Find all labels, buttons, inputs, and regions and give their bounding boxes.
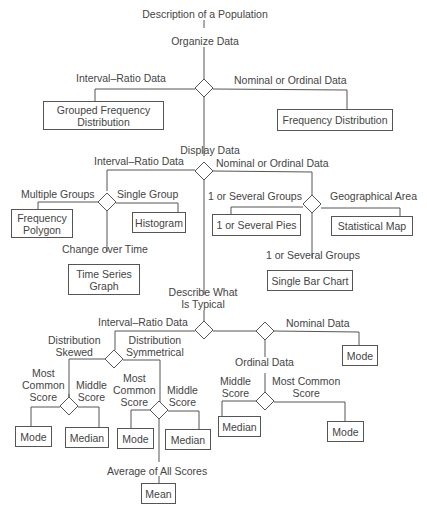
decision-diamond-nominal-display [303,195,321,213]
decision-diamond-distribution [105,350,123,368]
edge-middle-score-skewed: Middle Score [76,379,107,403]
edge-most-common-score-symmetrical: Most Common Score [113,372,156,408]
decision-diamond-interval-display [98,193,116,211]
edge-one-several-groups-bar: 1 or Several Groups [266,249,360,261]
edge-most-common-score-skewed: Most Common Score [22,367,65,403]
stage-describe-typical: Describe What Is Typical [160,286,246,310]
box-mean: Mean [141,483,176,504]
decision-diamond-organize [195,79,213,97]
box-grouped-frequency-distribution: Grouped Frequency Distribution [43,101,164,130]
edge-middle-score-symmetrical: Middle Score [167,384,198,408]
box-pies: 1 or Several Pies [212,214,301,236]
edge-change-over-time: Change over Time [62,243,148,255]
edge-average-all-scores: Average of All Scores [107,465,207,477]
box-median-symmetrical: Median [165,429,211,450]
box-mode-nominal: Mode [342,345,378,366]
box-mode-ordinal: Mode [327,421,364,442]
diagram-title: Description of a Population [140,8,270,20]
box-median-ordinal: Median [218,416,261,437]
edge-distribution-symmetrical: Distribution Symmetrical [126,334,184,358]
stage-organize-data: Organize Data [160,35,250,47]
box-frequency-distribution: Frequency Distribution [277,109,393,131]
edge-interval-ratio-organize: Interval–Ratio Data [76,72,166,84]
edge-geographical-area: Geographical Area [330,190,417,202]
edge-one-several-groups: 1 or Several Groups [208,190,302,202]
decision-diamond-display [195,162,213,180]
edge-ordinal-data: Ordinal Data [235,356,294,368]
edge-nominal-ordinal-organize: Nominal or Ordinal Data [234,74,347,86]
box-mode-skewed: Mode [15,426,52,447]
box-histogram: Histogram [132,212,186,233]
edge-single-group: Single Group [117,188,178,200]
edge-middle-score-ordinal: Middle Score [220,375,251,399]
box-statistical-map: Statistical Map [331,216,413,236]
edge-nominal-data: Nominal Data [286,317,350,329]
edge-distribution-skewed: Distribution Skewed [48,334,101,358]
edge-interval-ratio-typical: Interval–Ratio Data [98,316,188,328]
box-frequency-polygon: Frequency Polygon [11,209,73,238]
box-median-skewed: Median [65,427,109,448]
box-mode-symmetrical: Mode [117,428,154,449]
edge-interval-ratio-display: Interval–Ratio Data [94,155,184,167]
edge-most-common-score-ordinal: Most Common Score [272,375,340,399]
decision-diamond-nominal-ordinal-typical [256,322,274,340]
decision-diamond-typical [195,321,213,339]
box-single-bar-chart: Single Bar Chart [267,270,353,291]
edge-multiple-groups: Multiple Groups [21,188,95,200]
edge-nominal-ordinal-display: Nominal or Ordinal Data [216,157,329,169]
box-time-series-graph: Time Series Graph [68,264,140,295]
